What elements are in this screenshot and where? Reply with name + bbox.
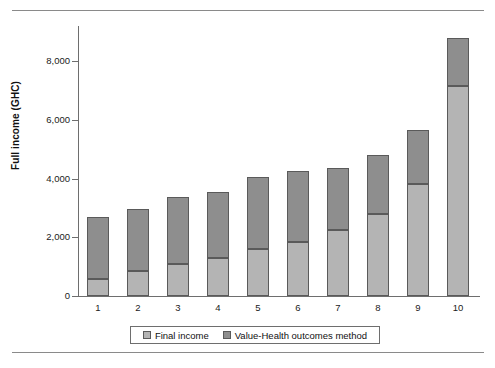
y-axis-tick-label: 2,000 — [22, 232, 70, 242]
bar-segment-final-income — [127, 271, 149, 296]
bar-segment-value-health-outcomes-method — [287, 171, 309, 241]
bar-segment-value-health-outcomes-method — [127, 209, 149, 271]
bar-group — [447, 26, 469, 296]
chart-legend: Final income Value-Health outcomes metho… — [130, 326, 380, 344]
bar-segment-value-health-outcomes-method — [407, 130, 429, 184]
x-axis-tick-label: 7 — [323, 302, 353, 313]
legend-swatch-icon — [143, 331, 151, 339]
x-axis-tick-label: 9 — [403, 302, 433, 313]
bottom-rule — [12, 352, 484, 353]
bar-segment-value-health-outcomes-method — [87, 217, 109, 279]
bar-group — [127, 26, 149, 296]
bar-segment-final-income — [247, 249, 269, 296]
x-axis-tick-label: 5 — [243, 302, 273, 313]
bar-segment-final-income — [287, 242, 309, 296]
bar-segment-value-health-outcomes-method — [167, 197, 189, 264]
legend-label: Final income — [155, 330, 209, 341]
bar-group — [407, 26, 429, 296]
y-axis-tick-label: 6,000 — [22, 115, 70, 125]
bar-segment-final-income — [87, 279, 109, 296]
bar-segment-value-health-outcomes-method — [367, 155, 389, 214]
bar-group — [287, 26, 309, 296]
bar-segment-final-income — [167, 264, 189, 296]
x-axis-tick-label: 2 — [123, 302, 153, 313]
bar-group — [367, 26, 389, 296]
legend-item-final-income: Final income — [143, 330, 209, 341]
bar-group — [207, 26, 229, 296]
y-axis-tick — [72, 296, 78, 297]
bar-segment-final-income — [407, 184, 429, 296]
legend-item-value-health-outcomes-method: Value-Health outcomes method — [223, 330, 367, 341]
x-axis-tick-label: 1 — [83, 302, 113, 313]
bar-group — [327, 26, 349, 296]
bar-group — [167, 26, 189, 296]
bar-group — [247, 26, 269, 296]
y-axis-tick-label: 8,000 — [22, 56, 70, 66]
x-axis-tick-label: 3 — [163, 302, 193, 313]
bar-segment-value-health-outcomes-method — [447, 38, 469, 86]
bar-segment-final-income — [447, 86, 469, 296]
top-rule — [12, 10, 484, 11]
legend-swatch-icon — [223, 331, 231, 339]
bar-group — [87, 26, 109, 296]
bar-segment-value-health-outcomes-method — [207, 192, 229, 258]
x-axis-tick-label: 4 — [203, 302, 233, 313]
bar-segment-value-health-outcomes-method — [327, 168, 349, 230]
x-axis-tick-label: 8 — [363, 302, 393, 313]
x-axis-tick-label: 6 — [283, 302, 313, 313]
legend-label: Value-Health outcomes method — [235, 330, 367, 341]
bar-segment-value-health-outcomes-method — [247, 177, 269, 249]
y-axis-tick-label: 0 — [22, 291, 70, 301]
x-axis-line — [78, 296, 480, 297]
x-axis-tick-label: 10 — [443, 302, 473, 313]
figure-container: Full income (GHC) 02,0004,0006,0008,000 … — [0, 0, 495, 368]
bar-segment-final-income — [367, 214, 389, 296]
y-axis-title: Full income (GHC) — [10, 41, 21, 211]
plot-area — [78, 26, 478, 296]
y-axis-tick-label: 4,000 — [22, 174, 70, 184]
bar-segment-final-income — [207, 258, 229, 296]
bar-segment-final-income — [327, 230, 349, 296]
